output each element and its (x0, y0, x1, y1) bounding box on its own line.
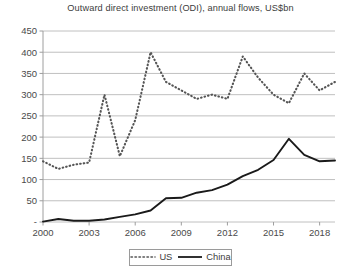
chart-legend: US China (129, 249, 232, 266)
legend-entry-china: China (177, 253, 230, 262)
svg-text:350: 350 (21, 68, 37, 79)
series-line-china (43, 139, 335, 222)
svg-text:50: 50 (26, 195, 37, 206)
odi-chart: Outward direct investment (ODI), annual … (0, 0, 361, 275)
svg-text:2003: 2003 (79, 227, 100, 238)
series-line-us (43, 52, 335, 169)
legend-label-us: US (159, 253, 172, 262)
svg-text:2015: 2015 (263, 227, 284, 238)
svg-text:450: 450 (21, 25, 37, 36)
legend-swatch-dotted-icon (130, 253, 156, 261)
svg-text:400: 400 (21, 47, 37, 58)
svg-text:250: 250 (21, 110, 37, 121)
y-axis-ticks (40, 31, 44, 222)
y-axis-tick-labels: 45040035030025020015010050- (21, 25, 37, 227)
svg-text:2018: 2018 (309, 227, 330, 238)
legend-swatch-solid-icon (177, 253, 203, 261)
svg-text:2006: 2006 (125, 227, 146, 238)
legend-label-china: China (206, 253, 230, 262)
chart-plot-area: 45040035030025020015010050- 200020032006… (0, 0, 361, 275)
svg-text:2009: 2009 (171, 227, 192, 238)
svg-text:300: 300 (21, 89, 37, 100)
svg-text:2000: 2000 (32, 227, 53, 238)
gridlines (43, 31, 335, 222)
x-axis-tick-labels: 2000200320062009201220152018 (32, 227, 330, 238)
svg-text:-: - (34, 216, 37, 227)
svg-text:150: 150 (21, 153, 37, 164)
svg-text:200: 200 (21, 132, 37, 143)
x-axis-ticks (43, 222, 320, 226)
svg-text:2012: 2012 (217, 227, 238, 238)
svg-text:100: 100 (21, 174, 37, 185)
legend-entry-us: US (130, 253, 172, 262)
